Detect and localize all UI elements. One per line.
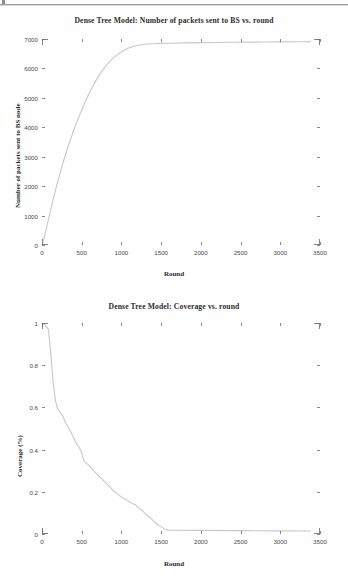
y-tick-mark <box>317 68 320 69</box>
y-tick-label: 0 <box>12 242 38 249</box>
y-tick-mark <box>317 450 320 451</box>
y-tick-label: 4000 <box>12 124 38 131</box>
x-tick-mark <box>201 39 202 42</box>
x-tick-mark <box>201 531 202 534</box>
x-tick-label: 500 <box>77 538 87 545</box>
x-tick-mark <box>82 323 83 326</box>
x-tick-label: 2000 <box>194 249 208 256</box>
y-tick-mark <box>317 157 320 158</box>
x-tick-mark <box>161 323 162 326</box>
y-tick-mark <box>42 365 45 366</box>
chart-title-1: Dense Tree Model: Number of packets sent… <box>0 16 348 25</box>
x-tick-mark <box>280 39 281 42</box>
x-tick-mark <box>121 39 122 42</box>
x-tick-mark <box>201 242 202 245</box>
y-tick-label: 0.4 <box>12 446 38 453</box>
x-tick-label: 2000 <box>194 538 208 545</box>
x-axis-title-1: Round <box>0 270 348 278</box>
y-tick-label: 0.8 <box>12 362 38 369</box>
figure-coverage-vs-round: Dense Tree Model: Coverage vs. round Cov… <box>0 292 348 579</box>
y-tick-mark <box>317 245 320 246</box>
x-tick-label: 3500 <box>313 538 327 545</box>
y-tick-mark <box>317 492 320 493</box>
x-tick-mark <box>201 323 202 326</box>
x-tick-mark <box>241 531 242 534</box>
y-tick-label: 3000 <box>12 153 38 160</box>
y-tick-label: 0 <box>12 531 38 538</box>
x-tick-label: 0 <box>40 249 43 256</box>
x-tick-label: 2500 <box>234 538 248 545</box>
y-tick-mark <box>42 127 45 128</box>
x-tick-label: 3500 <box>313 249 327 256</box>
y-tick-label: 2000 <box>12 183 38 190</box>
x-tick-mark <box>280 323 281 326</box>
y-tick-mark <box>42 450 45 451</box>
chart-title-2: Dense Tree Model: Coverage vs. round <box>0 302 348 311</box>
plot-area-1: 0500100015002000250030003500010002000300… <box>42 39 320 245</box>
y-tick-mark <box>42 157 45 158</box>
x-tick-mark <box>161 242 162 245</box>
y-axis-title-2: Coverage (%) <box>16 435 24 477</box>
x-tick-mark <box>320 242 321 245</box>
x-tick-mark <box>121 323 122 326</box>
y-tick-mark <box>317 186 320 187</box>
x-tick-mark <box>241 39 242 42</box>
x-tick-label: 2500 <box>234 249 248 256</box>
y-tick-mark <box>317 127 320 128</box>
x-tick-mark <box>121 242 122 245</box>
y-tick-mark <box>42 492 45 493</box>
scanned-page: Dense Tree Model: Number of packets sent… <box>0 0 348 579</box>
x-tick-label: 1500 <box>154 249 168 256</box>
x-axis-title-2: Round <box>0 560 348 568</box>
y-tick-mark <box>42 39 45 40</box>
scan-horizontal-rule-shadow <box>0 5 348 6</box>
x-tick-label: 500 <box>77 249 87 256</box>
y-tick-mark <box>317 39 320 40</box>
y-tick-mark <box>317 323 320 324</box>
x-tick-mark <box>161 39 162 42</box>
x-tick-mark <box>241 242 242 245</box>
y-tick-label: 5000 <box>12 94 38 101</box>
y-tick-label: 6000 <box>12 65 38 72</box>
y-tick-mark <box>317 534 320 535</box>
x-tick-label: 1000 <box>115 249 129 256</box>
y-tick-mark <box>42 98 45 99</box>
y-tick-mark <box>42 534 45 535</box>
y-tick-label: 1 <box>12 320 38 327</box>
x-tick-mark <box>121 531 122 534</box>
data-line-packets <box>42 39 320 245</box>
x-tick-label: 3000 <box>273 538 287 545</box>
x-tick-mark <box>241 323 242 326</box>
y-tick-label: 1000 <box>12 212 38 219</box>
y-tick-label: 0.2 <box>12 488 38 495</box>
x-tick-mark <box>82 39 83 42</box>
x-tick-label: 1500 <box>154 538 168 545</box>
y-tick-label: 7000 <box>12 36 38 43</box>
x-tick-mark <box>82 242 83 245</box>
figure-packets-vs-round: Dense Tree Model: Number of packets sent… <box>0 8 348 290</box>
y-tick-mark <box>317 365 320 366</box>
data-line-coverage <box>42 323 320 534</box>
y-tick-mark <box>317 216 320 217</box>
x-tick-mark <box>280 242 281 245</box>
y-tick-mark <box>42 407 45 408</box>
y-tick-mark <box>42 216 45 217</box>
x-tick-label: 3000 <box>273 249 287 256</box>
x-tick-label: 0 <box>40 538 43 545</box>
x-tick-mark <box>320 531 321 534</box>
y-tick-mark <box>317 98 320 99</box>
x-tick-mark <box>280 531 281 534</box>
y-tick-mark <box>317 407 320 408</box>
x-tick-mark <box>320 39 321 42</box>
x-tick-label: 1000 <box>115 538 129 545</box>
y-tick-mark <box>42 68 45 69</box>
x-tick-mark <box>320 323 321 326</box>
plot-area-2: 050010001500200025003000350000.20.40.60.… <box>42 323 320 534</box>
y-tick-mark <box>42 186 45 187</box>
x-tick-mark <box>82 531 83 534</box>
y-tick-mark <box>42 323 45 324</box>
y-tick-mark <box>42 245 45 246</box>
y-tick-label: 0.6 <box>12 404 38 411</box>
x-tick-mark <box>161 531 162 534</box>
